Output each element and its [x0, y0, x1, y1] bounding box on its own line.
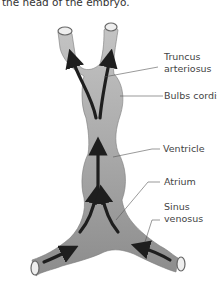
vessel-opening-left-bottom — [31, 261, 39, 275]
label-truncus-arteriosus: Truncus arteriosus — [164, 51, 212, 75]
label-line: arteriosus — [164, 63, 212, 75]
label-sinus-venosus: Sinus venosus — [164, 201, 203, 225]
label-atrium: Atrium — [164, 176, 196, 188]
label-line: Ventricle — [163, 143, 205, 155]
label-bulbs-cordis: Bulbs cordis — [164, 90, 217, 102]
label-line: venosus — [164, 213, 203, 225]
vessel-opening-left-top — [58, 27, 72, 35]
label-line: Atrium — [164, 176, 196, 188]
label-line: Sinus — [164, 201, 203, 213]
label-line: Truncus — [164, 51, 212, 63]
label-line: Bulbs cordis — [164, 90, 217, 102]
vessel-opening-right-bottom — [177, 257, 185, 271]
vessel-opening-right-top — [105, 23, 117, 31]
label-ventricle: Ventricle — [163, 143, 205, 155]
heart-tube-shape — [32, 26, 178, 276]
